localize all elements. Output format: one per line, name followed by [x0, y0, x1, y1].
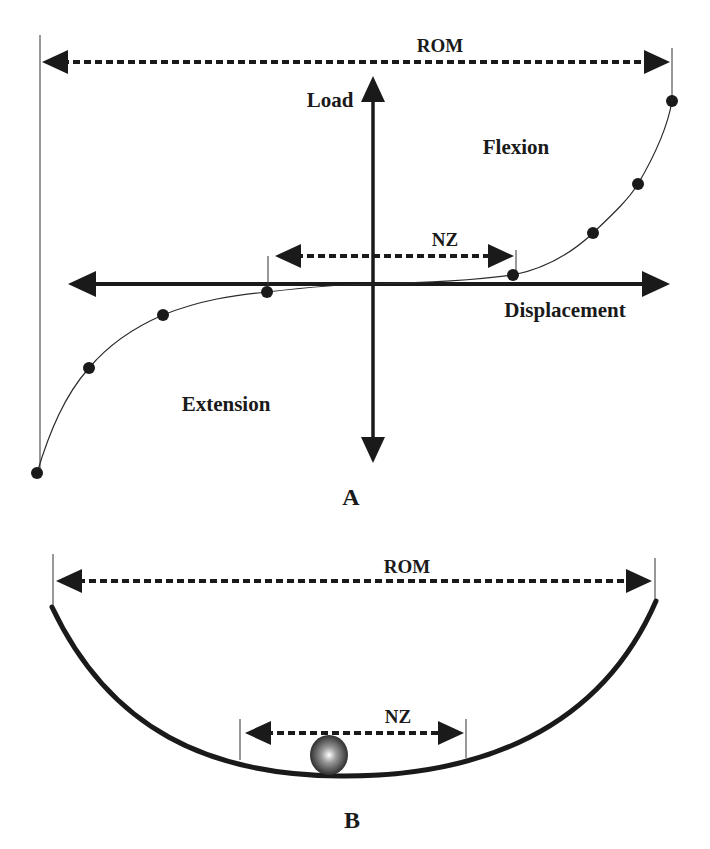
arrowhead-left-icon [275, 244, 301, 268]
arrowhead-left-icon [245, 721, 271, 745]
panel-b-label: B [344, 807, 360, 833]
data-point [83, 362, 95, 374]
arrowhead-right-icon [488, 244, 514, 268]
panel-a: ROM Load Displacement NZ [31, 35, 678, 510]
nz-double-arrow [275, 244, 514, 268]
arrowhead-left-icon [56, 569, 82, 593]
load-axis [361, 76, 385, 463]
curve-data-points [31, 95, 678, 479]
load-displacement-curve [37, 101, 672, 473]
spinal-biomechanics-diagram: ROM Load Displacement NZ [0, 0, 710, 849]
nz-double-arrow [245, 721, 464, 745]
data-point [157, 309, 169, 321]
rom-double-arrow [42, 50, 670, 74]
arrow-down-icon [361, 437, 385, 463]
arrow-left-icon [68, 271, 96, 297]
data-point [632, 178, 644, 190]
panel-b: ROM NZ B [52, 554, 656, 833]
load-axis-label: Load [307, 88, 354, 112]
flexion-region-label: Flexion [483, 135, 550, 159]
data-point [507, 269, 519, 281]
arrowhead-left-icon [42, 50, 68, 74]
nz-label-b: NZ [385, 706, 411, 727]
arrow-up-icon [361, 76, 385, 102]
data-point [587, 227, 599, 239]
panel-a-label: A [342, 484, 360, 510]
nz-label-a: NZ [432, 229, 458, 250]
data-point [31, 467, 43, 479]
ball-icon [310, 735, 348, 775]
arrowhead-right-icon [644, 50, 670, 74]
data-point [261, 286, 273, 298]
rom-label-a: ROM [417, 35, 464, 56]
rom-label-b: ROM [384, 556, 431, 577]
extension-region-label: Extension [182, 392, 271, 416]
energy-bowl-curve [52, 601, 656, 776]
data-point [666, 95, 678, 107]
arrowhead-right-icon [438, 721, 464, 745]
displacement-axis-label: Displacement [504, 298, 625, 322]
rom-double-arrow [56, 569, 652, 593]
arrowhead-right-icon [626, 569, 652, 593]
arrow-right-icon [642, 271, 670, 297]
